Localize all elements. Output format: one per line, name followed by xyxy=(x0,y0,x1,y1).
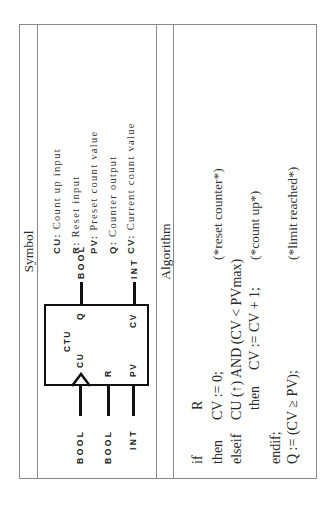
algo-kw-then: then xyxy=(210,440,226,464)
algorithm-header: Algorithm xyxy=(156,25,174,478)
block-name: CTU xyxy=(62,330,72,352)
output-type-cv: INT xyxy=(129,258,139,279)
pin-pv: PV xyxy=(128,363,138,377)
rising-edge-icon xyxy=(71,372,91,388)
input-type-r: BOOL xyxy=(103,429,113,464)
algo-code-if: R xyxy=(190,401,206,410)
algo-kw-endif: endif; xyxy=(268,431,284,464)
algo-kw-then2: then xyxy=(247,386,263,410)
pin-cv: CV xyxy=(128,313,138,328)
desc-cv: CV: Current count value xyxy=(122,122,141,254)
symbol-section: BOOL BOOL INT CTU CU R PV Q CV BOOL INT … xyxy=(38,25,156,478)
algo-code-condition: CU (↑) AND (CV < PVmax) xyxy=(229,259,245,420)
algo-code-reset: CV := 0; xyxy=(210,371,226,420)
algo-kw-if: if xyxy=(190,455,206,464)
output-wire-cv xyxy=(133,282,136,304)
desc-r: R: Reset input xyxy=(67,122,86,254)
ctu-definition-table: Symbol BOOL BOOL INT CTU CU R PV Q CV BO… xyxy=(19,24,317,479)
symbol-header: Symbol xyxy=(20,25,38,478)
pin-descriptions: CU: Count up input R: Reset input PV: Pr… xyxy=(48,122,141,254)
comment-count-up: (*count up*) xyxy=(247,191,263,260)
algo-code-output: Q := (CV ≥ PV); xyxy=(285,370,301,464)
comment-limit: (*limit reached*) xyxy=(285,167,301,260)
desc-q: Q: Counter output xyxy=(104,122,123,254)
pin-q: Q xyxy=(75,312,85,320)
algo-kw-elseif: elseif xyxy=(229,434,245,464)
input-type-cu: BOOL xyxy=(75,429,85,464)
input-wire-pv xyxy=(132,386,135,416)
output-wire-q xyxy=(80,282,83,304)
comment-reset: (*reset counter*) xyxy=(210,168,226,260)
algorithm-section: if R then CV := 0; (*reset counter*) els… xyxy=(174,25,318,478)
input-wire-r xyxy=(107,386,110,416)
desc-pv: PV: Preset count value xyxy=(85,122,104,254)
pin-r: R xyxy=(103,369,113,377)
algo-code-increment: CV := CV + 1; xyxy=(247,287,263,370)
desc-cu: CU: Count up input xyxy=(48,122,67,254)
pin-cu: CU xyxy=(75,353,85,368)
input-type-pv: INT xyxy=(128,429,138,450)
input-wire-cu xyxy=(79,386,82,416)
